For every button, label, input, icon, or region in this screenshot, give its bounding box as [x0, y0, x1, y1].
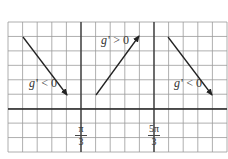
label-g-prime-negative-left: g ' < 0 — [29, 77, 57, 89]
label-g-prime-negative-right: g ' < 0 — [174, 77, 202, 89]
tick-pi-over-3-numerator: π — [75, 124, 87, 136]
tick-5pi-over-3-numerator: 5π — [148, 124, 160, 136]
tick-pi-over-3-denominator: 3 — [71, 136, 91, 147]
tick-pi-over-3: π 3 — [71, 124, 91, 147]
label-g-prime-positive: g ' > 0 — [101, 34, 129, 46]
tick-5pi-over-3: 5π 3 — [144, 124, 164, 147]
tick-5pi-over-3-denominator: 3 — [144, 136, 164, 147]
